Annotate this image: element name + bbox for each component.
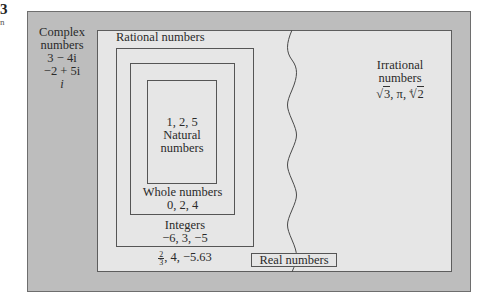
real-numbers-label: Real numbers: [251, 253, 337, 267]
irrational-examples: √3, π, 4√2: [345, 85, 455, 101]
natural-title-line2: numbers: [147, 142, 217, 155]
root-icon: √: [410, 87, 417, 101]
rational-numbers-label: Rational numbers: [116, 31, 205, 44]
rational-examples-rest: , 4, −5.63: [164, 250, 212, 264]
rational-irrational-divider: [280, 30, 310, 272]
whole-examples: 0, 2, 4: [130, 199, 235, 212]
complex-example: i: [27, 78, 97, 91]
integers-examples: −6, 3, −5: [116, 232, 254, 245]
irrational-title-line2: numbers: [345, 72, 455, 85]
whole-numbers-label: Whole numbers 0, 2, 4: [130, 186, 235, 212]
sqrt-radicand: 3: [383, 86, 390, 101]
integers-label: Integers −6, 3, −5: [116, 219, 254, 245]
root-radicand: 2: [417, 86, 424, 101]
irrational-numbers-label: Irrational numbers √3, π, 4√2: [345, 59, 455, 101]
rational-examples: 2 3 , 4, −5.63: [116, 251, 254, 266]
natural-numbers-label: 1, 2, 5 Natural numbers: [147, 116, 217, 155]
pi-symbol: π: [397, 87, 403, 101]
complex-numbers-label: Complex numbers 3 − 4i −2 + 5i i: [27, 26, 97, 91]
figure-caption-fragment: n: [0, 18, 5, 27]
figure-number-fragment: 3: [0, 2, 8, 17]
